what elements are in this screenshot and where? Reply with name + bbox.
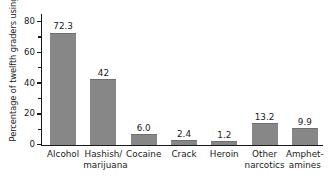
bar-2: 6.0: [131, 119, 157, 144]
category-label-4: Heroin: [204, 149, 244, 160]
bar-value-label: 9.9: [298, 118, 312, 127]
bar-value-label: 72.3: [53, 22, 73, 31]
bar-value-label: 1.2: [217, 131, 231, 140]
bar-rect: [50, 33, 76, 145]
y-tick-label-20: 20: [11, 109, 35, 118]
category-label-line1: Crack: [171, 149, 196, 159]
category-label-line2: marijuana: [83, 160, 123, 171]
x-axis-category-labels: AlcoholHashish/marijuanaCocaineCrackHero…: [41, 149, 323, 187]
bar-chart: Percentage of twelfth graders using 0204…: [0, 0, 329, 189]
bar-rect: [292, 128, 318, 144]
bar-4: 1.2: [211, 126, 237, 144]
category-label-line1: Amphet-: [286, 149, 324, 159]
bar-rect: [211, 141, 237, 144]
bar-value-label: 42: [98, 69, 109, 78]
category-label-line2: narcotics: [244, 160, 284, 171]
y-axis-tick-labels: 020406080: [11, 14, 35, 146]
bar-1: 42: [90, 64, 116, 145]
bar-value-label: 13.2: [255, 113, 275, 122]
category-label-line1: Heroin: [210, 149, 239, 159]
y-tick-label-80: 80: [11, 17, 35, 26]
y-tick-label-40: 40: [11, 79, 35, 88]
plot-area: 020406080 72.3426.02.41.213.29.9: [41, 14, 323, 146]
category-label-3: Crack: [164, 149, 204, 160]
bar-0: 72.3: [50, 18, 76, 145]
bar-rect: [171, 140, 197, 145]
bar-value-label: 2.4: [177, 130, 191, 139]
bars-layer: 72.3426.02.41.213.29.9: [41, 14, 323, 146]
category-label-line1: Other: [252, 149, 277, 159]
category-label-line2: amines: [285, 160, 325, 171]
category-label-0: Alcohol: [43, 149, 83, 160]
category-label-5: Othernarcotics: [244, 149, 284, 170]
category-label-2: Cocaine: [124, 149, 164, 160]
y-tick-label-0: 0: [11, 140, 35, 149]
bar-3: 2.4: [171, 125, 197, 145]
bar-rect: [252, 123, 278, 144]
category-label-1: Hashish/marijuana: [83, 149, 123, 170]
y-tick-label-60: 60: [11, 48, 35, 57]
category-label-line1: Alcohol: [47, 149, 79, 159]
category-label-line1: Cocaine: [126, 149, 161, 159]
bar-6: 9.9: [292, 113, 318, 144]
bar-5: 13.2: [252, 108, 278, 144]
category-label-line1: Hashish/: [85, 149, 123, 159]
bar-value-label: 6.0: [137, 124, 151, 133]
category-label-6: Amphet-amines: [285, 149, 325, 170]
bar-rect: [90, 79, 116, 145]
bar-rect: [131, 134, 157, 144]
